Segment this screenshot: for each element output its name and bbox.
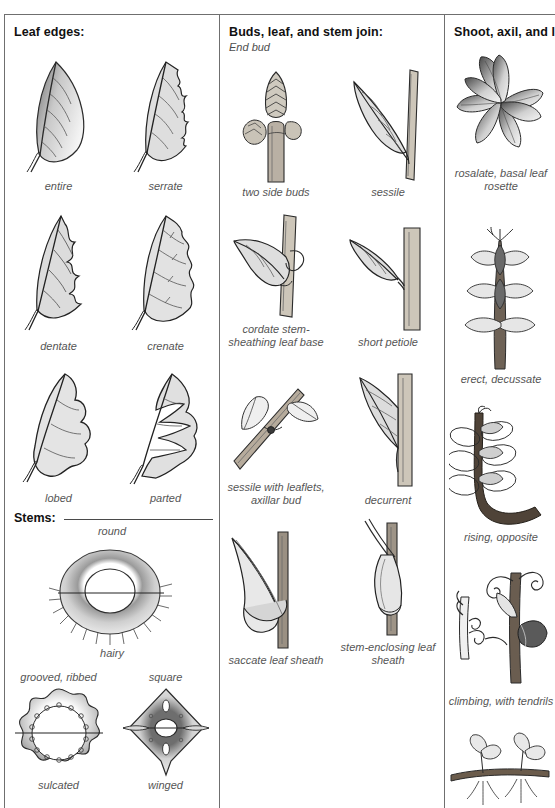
label-sessile: sessile: [371, 186, 405, 199]
label-stem-grooved-ribbed: grooved, ribbed: [20, 671, 96, 683]
label-leaf-dentate: dentate: [40, 340, 77, 353]
botany-reference-chart: Leaf edges:: [4, 14, 555, 808]
figure-erect-decussate: erect, decussate: [445, 227, 555, 403]
panel-leaf-edges-heading: Leaf edges:: [5, 15, 219, 39]
label-leaf-entire: entire: [45, 180, 73, 193]
label-decurrent: decurrent: [365, 494, 411, 507]
label-stem-winged: winged: [148, 779, 183, 792]
stems-rule: [64, 519, 213, 520]
figure-leaf-serrate: serrate: [112, 41, 219, 193]
label-erect-decussate: erect, decussate: [461, 373, 542, 386]
join-stem-enclosing-sheath-icon: [343, 515, 433, 641]
shoot-erect-decussate-icon: [449, 227, 553, 373]
label-stem-enclosing-sheath: stem-enclosing leaf sheath: [332, 641, 444, 667]
figure-climbing-tendrils: climbing, with tendrils: [445, 555, 555, 729]
leaf-lobed-icon: [9, 366, 109, 492]
panel-leaf-edges: Leaf edges:: [5, 15, 219, 808]
figure-leaf-crenate: crenate: [112, 193, 219, 353]
join-sessile-leaflets-icon: [226, 369, 326, 481]
figure-short-petiole: short petiole: [332, 199, 444, 349]
panel-shoot-heading: Shoot, axil, and lea: [445, 15, 555, 39]
leaf-parted-icon: [116, 366, 216, 492]
panel-buds-leaf-stem-join: Buds, leaf, and stem join: End bud: [219, 15, 444, 808]
label-stem-sulcated: sulcated: [38, 779, 79, 792]
figure-cordate-sheathing: cordate stem-sheathing leaf base: [220, 199, 332, 349]
label-stem-hairy: hairy: [100, 647, 124, 660]
figure-leaf-entire: entire: [5, 41, 112, 193]
panel-buds-heading: Buds, leaf, and stem join:: [220, 15, 444, 39]
figure-decurrent: decurrent: [332, 349, 444, 507]
illustration-page: Leaf edges:: [0, 0, 555, 808]
figure-leaf-lobed: lobed: [5, 353, 112, 505]
label-rosette: rosalate, basal leaf rosette: [445, 167, 555, 193]
stems-subheading-row: Stems:: [5, 505, 219, 525]
panel-shoot-axil-leaf: Shoot, axil, and lea: [444, 15, 555, 808]
figure-rising-opposite: rising, opposite: [445, 403, 555, 555]
join-sessile-icon: [340, 64, 436, 186]
figure-two-side-buds: two side buds: [220, 55, 332, 199]
label-leaf-lobed: lobed: [45, 492, 72, 505]
figure-stem-winged: square: [112, 671, 219, 808]
join-saccate-sheath-icon: [226, 528, 326, 654]
label-rising-opposite: rising, opposite: [464, 531, 538, 544]
label-short-petiole: short petiole: [358, 336, 418, 349]
label-stem-round: round: [98, 525, 126, 537]
leaf-dentate-icon: [9, 208, 109, 340]
join-decurrent-icon: [340, 368, 436, 494]
label-two-side-buds: two side buds: [242, 186, 309, 199]
label-saccate-sheath: saccate leaf sheath: [229, 654, 324, 667]
label-leaf-parted: parted: [150, 492, 181, 505]
label-leaf-serrate: serrate: [148, 180, 182, 193]
figure-sessile: sessile: [332, 55, 444, 199]
figure-saccate-sheath: saccate leaf sheath: [220, 507, 332, 667]
stem-round-hairy-icon: [44, 537, 180, 647]
annotation-end-bud: End bud: [220, 39, 444, 53]
figure-leaf-parted: parted: [112, 353, 219, 505]
stem-sulcated-icon: [8, 683, 110, 779]
shoot-creeping-icon: [449, 729, 553, 808]
stems-heading: Stems:: [14, 511, 56, 525]
label-climbing-tendrils: climbing, with tendrils: [449, 695, 554, 708]
figure-stem-sulcated: grooved, ribbed: [5, 671, 112, 808]
leaf-crenate-icon: [116, 208, 216, 340]
leaf-serrate-icon: [116, 54, 216, 180]
shoot-rosette-icon: [449, 45, 553, 161]
label-leaf-crenate: crenate: [147, 340, 184, 353]
figure-creeping: creeping with: [445, 729, 555, 808]
figure-stem-round-hairy: round hairy: [5, 525, 219, 671]
figure-stem-enclosing-sheath: stem-enclosing leaf sheath: [332, 507, 444, 667]
stem-winged-icon: [115, 683, 217, 779]
bud-two-side-buds-icon: [228, 64, 324, 186]
figure-rosette: rosalate, basal leaf rosette: [445, 45, 555, 227]
figure-sessile-leaflets: sessile with leaflets, axillar bud: [220, 349, 332, 507]
join-cordate-sheathing-icon: [228, 213, 324, 323]
join-short-petiole-icon: [340, 226, 436, 336]
label-stem-square: square: [149, 671, 183, 683]
shoot-rising-opposite-icon: [449, 403, 553, 531]
shoot-climbing-tendrils-icon: [449, 555, 553, 691]
label-sessile-leaflets: sessile with leaflets, axillar bud: [220, 481, 332, 507]
label-cordate-sheathing: cordate stem-sheathing leaf base: [220, 323, 332, 349]
leaf-entire-icon: [9, 54, 109, 180]
figure-leaf-dentate: dentate: [5, 193, 112, 353]
